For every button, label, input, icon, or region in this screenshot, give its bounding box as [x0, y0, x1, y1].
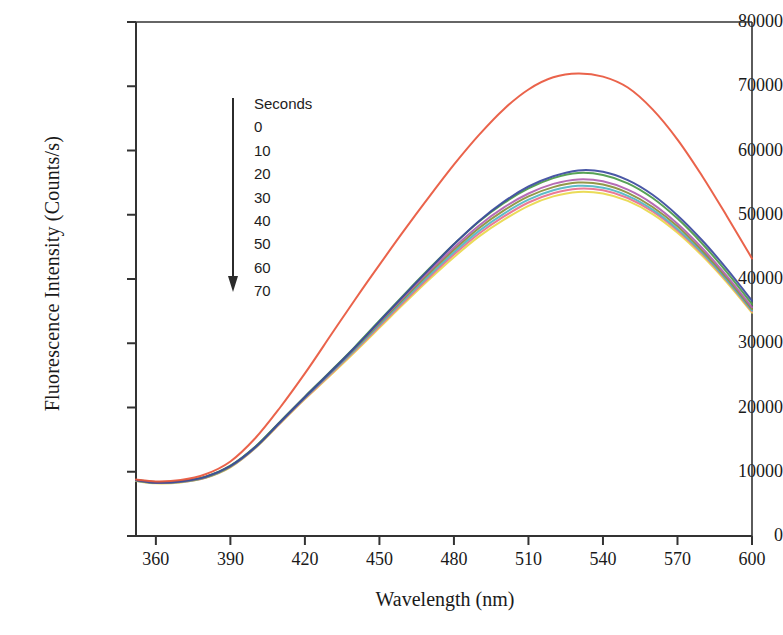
legend-entry-20: 20 — [254, 162, 312, 185]
down-arrow-icon — [224, 98, 244, 294]
legend-entry-40: 40 — [254, 209, 312, 232]
chart-figure: Fluorescence Intensity (Counts/s) Wavele… — [0, 0, 783, 635]
legend-entry-50: 50 — [254, 232, 312, 255]
legend-entry-list: Seconds 0 10 20 30 40 50 60 70 — [254, 92, 312, 303]
plot-canvas — [0, 0, 783, 635]
legend-title: Seconds — [254, 92, 312, 115]
legend-entry-30: 30 — [254, 186, 312, 209]
legend-entry-0: 0 — [254, 115, 312, 138]
legend-entry-60: 60 — [254, 256, 312, 279]
legend-entry-10: 10 — [254, 139, 312, 162]
legend-entry-70: 70 — [254, 279, 312, 302]
